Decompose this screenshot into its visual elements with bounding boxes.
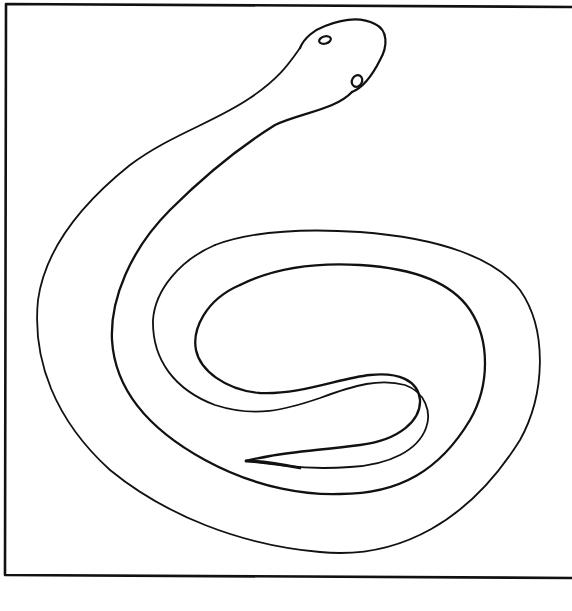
snake-eye-upper (318, 35, 331, 45)
snake-outer-outline (37, 48, 540, 553)
snake-illustration (0, 0, 572, 611)
snake-coil-inner (195, 285, 420, 461)
snake-head-outline (300, 20, 385, 92)
snake-coil-outer (153, 245, 428, 468)
snake-tail-tip (246, 461, 300, 468)
frame-border (5, 4, 572, 578)
snake-inner-outline (112, 92, 485, 494)
